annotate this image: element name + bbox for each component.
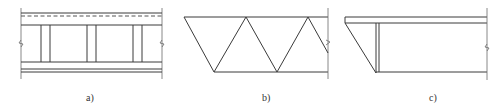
panel-a-label: a) [86, 92, 94, 104]
panel-c-label: c) [429, 92, 437, 104]
panel-c-drawing [345, 8, 489, 80]
panel-b-drawing [184, 8, 330, 79]
panel-b-label: b) [262, 92, 270, 104]
structural-diagram: a) b) c) [0, 0, 504, 109]
panel-a-drawing [19, 8, 164, 79]
